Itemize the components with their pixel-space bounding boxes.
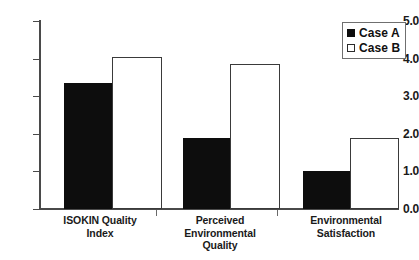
category-label-line: Satisfaction <box>292 227 400 240</box>
x-axis-category-label-satisfaction: Environmental Satisfaction <box>292 214 400 239</box>
bar-case-a-isokin-quality-index <box>64 83 112 209</box>
x-axis-tick <box>156 210 157 216</box>
bar-case-b-isokin-quality-index <box>112 57 162 209</box>
bar-case-b-perceived-environmental-quality <box>230 64 280 209</box>
bar-case-a-perceived-environmental-quality <box>183 138 230 209</box>
x-axis-tick <box>277 210 278 216</box>
category-label-line: Perceived <box>166 214 274 227</box>
chart-legend: Case A Case B <box>342 22 406 59</box>
legend-swatch-hollow-icon <box>347 44 355 52</box>
category-label-line: Quality <box>166 239 274 252</box>
legend-swatch-filled-icon <box>347 29 355 37</box>
x-axis-category-label-isokin: ISOKIN Quality Index <box>50 214 150 239</box>
legend-label-case-b: Case B <box>359 42 400 54</box>
x-axis-category-label-perceived: Perceived Environmental Quality <box>166 214 274 252</box>
category-label-line: Environmental <box>292 214 400 227</box>
legend-item-case-b: Case B <box>347 40 400 55</box>
category-label-line: Index <box>50 227 150 240</box>
bar-case-b-environmental-satisfaction <box>350 138 399 209</box>
y-axis-tick <box>33 209 40 210</box>
bar-chart-figure: 5.0 4.0 3.0 2.0 1.0 0.0 ISOKIN Quality I… <box>0 0 419 260</box>
legend-item-case-a: Case A <box>347 25 400 40</box>
category-label-line: ISOKIN Quality <box>50 214 150 227</box>
bar-case-a-environmental-satisfaction <box>303 171 350 209</box>
legend-label-case-a: Case A <box>359 27 400 39</box>
category-label-line: Environmental <box>166 227 274 240</box>
